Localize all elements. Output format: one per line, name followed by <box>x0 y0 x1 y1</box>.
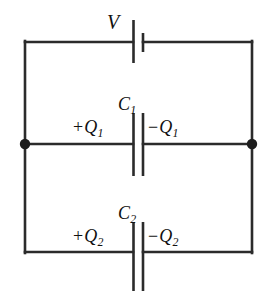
capacitor-c2-symbol <box>134 222 144 291</box>
circuit-schematic-canvas <box>0 0 266 291</box>
capacitor-c1-label-subscript: 1 <box>130 103 136 117</box>
capacitor-c2-positive-charge-label: +Q2 <box>73 227 103 245</box>
capacitor-c2-label-subscript: 2 <box>130 212 136 226</box>
capacitor-c1-symbol <box>134 113 144 176</box>
charge-symbol: Q <box>159 117 172 137</box>
positive-sign-icon: + <box>73 117 84 137</box>
charge-subscript: 2 <box>97 235 103 249</box>
junction-node-right <box>247 139 257 149</box>
positive-sign-icon: + <box>73 226 84 246</box>
charge-subscript: 1 <box>172 126 178 140</box>
capacitor-c2-label: C2 <box>118 204 136 222</box>
charge-subscript: 2 <box>172 235 178 249</box>
capacitor-c1-label-symbol: C <box>118 94 130 114</box>
capacitor-c2-label-symbol: C <box>118 203 130 223</box>
charge-symbol: Q <box>84 117 97 137</box>
capacitor-c1-positive-charge-label: +Q1 <box>73 118 103 136</box>
voltage-source-symbol <box>134 20 144 63</box>
negative-sign-icon: − <box>148 117 159 137</box>
circuit-diagram-figure: V C1 +Q1 −Q1 C2 +Q2 −Q2 <box>0 0 266 291</box>
capacitor-c2-negative-charge-label: −Q2 <box>148 227 178 245</box>
charge-symbol: Q <box>159 226 172 246</box>
voltage-source-label-text: V <box>107 11 119 33</box>
capacitor-c1-label: C1 <box>118 95 136 113</box>
voltage-source-label: V <box>107 12 119 32</box>
negative-sign-icon: − <box>148 226 159 246</box>
capacitor-c1-negative-charge-label: −Q1 <box>148 118 178 136</box>
junction-node-left <box>20 139 30 149</box>
charge-symbol: Q <box>84 226 97 246</box>
wire-group <box>25 41 252 253</box>
charge-subscript: 1 <box>97 126 103 140</box>
